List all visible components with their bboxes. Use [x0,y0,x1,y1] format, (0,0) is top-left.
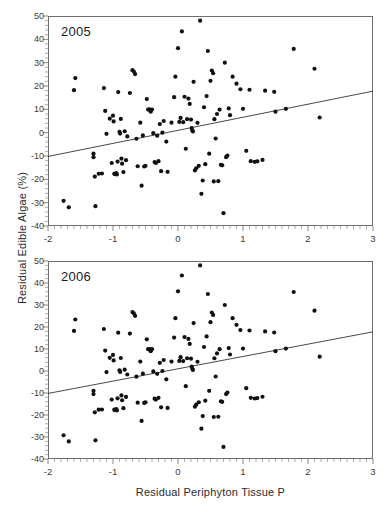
data-point [221,211,225,215]
data-point [91,152,95,156]
data-point [128,91,132,95]
data-point [164,377,168,381]
data-point [198,19,202,23]
data-point [151,369,155,373]
data-point [189,118,193,122]
data-point [155,372,159,376]
data-point [263,89,267,93]
data-point [188,102,192,106]
data-point [205,334,209,338]
data-point [67,205,71,209]
data-point [181,359,185,363]
y-tick-label: 10 [24,344,44,354]
panel-2005: 2005-40-30-20-1001020304050-2-10123 [48,16,373,226]
x-tick-label: -1 [103,466,123,477]
data-point [159,169,163,173]
data-point [292,47,296,51]
data-point [133,72,137,76]
data-point [115,408,119,412]
x-tick-label: -2 [38,466,58,477]
data-point [318,115,322,119]
y-tick-label: -20 [24,410,44,420]
data-point [191,368,195,372]
x-tick-label: -1 [103,233,123,244]
data-point [72,329,76,333]
data-point [156,159,160,163]
data-point [124,395,128,399]
data-point [108,117,112,121]
scatter-figure: Residual Edible Algae (%) 2005-40-30-20-… [0,0,390,512]
data-point [155,134,159,138]
x-tick-label: 2 [298,466,318,477]
data-point [134,375,138,379]
y-tick-label: 40 [24,34,44,44]
data-point [206,292,210,296]
data-point [180,29,184,33]
data-point [140,419,144,423]
data-point [227,346,231,350]
y-tick-label: -40 [24,454,44,464]
data-point [220,163,224,167]
data-point [169,121,173,125]
data-point [112,119,116,123]
data-point [185,356,189,360]
data-point [249,159,253,163]
data-point [284,107,288,111]
data-point [115,396,119,400]
data-point [164,139,168,143]
data-point [215,112,219,116]
data-point [215,351,219,355]
data-point [138,359,142,363]
data-point [203,399,207,403]
y-tick-label: 50 [24,256,44,266]
scatter-points [62,19,322,216]
data-point [110,398,114,402]
regression-line [48,91,373,156]
data-point [272,330,276,334]
data-point [103,348,107,352]
x-tick-label: 3 [363,233,383,244]
data-point [177,120,181,124]
data-point [158,122,162,126]
y-tick-label: 30 [24,58,44,68]
data-point [100,407,104,411]
regression-line [48,332,373,394]
data-point [136,164,140,168]
data-point [312,309,316,313]
y-tick-label: 30 [24,300,44,310]
data-point [182,335,186,339]
data-point [212,415,216,419]
data-point [112,358,116,362]
data-point [244,149,248,153]
data-point [199,192,203,196]
data-point [125,372,129,376]
data-point [238,328,242,332]
data-point [177,359,181,363]
data-point [181,120,185,124]
data-point [184,384,188,388]
data-point [111,353,115,357]
data-point [176,46,180,50]
data-point [115,172,119,176]
data-point [172,335,176,339]
data-point [110,161,114,165]
data-point [72,88,76,92]
data-point [260,158,264,162]
data-point [176,289,180,293]
data-point [136,401,140,405]
data-point [123,129,127,133]
data-point [162,358,166,362]
data-point [201,414,205,418]
data-point [93,204,97,208]
data-point [121,170,125,174]
data-point [212,117,216,121]
data-point [100,171,104,175]
data-point [172,95,176,99]
y-tick-label: -30 [24,432,44,442]
data-point [62,199,66,203]
data-point [192,321,196,325]
data-point [263,329,267,333]
y-tick-label: -30 [24,198,44,208]
data-point [103,109,107,113]
data-point [225,390,229,394]
